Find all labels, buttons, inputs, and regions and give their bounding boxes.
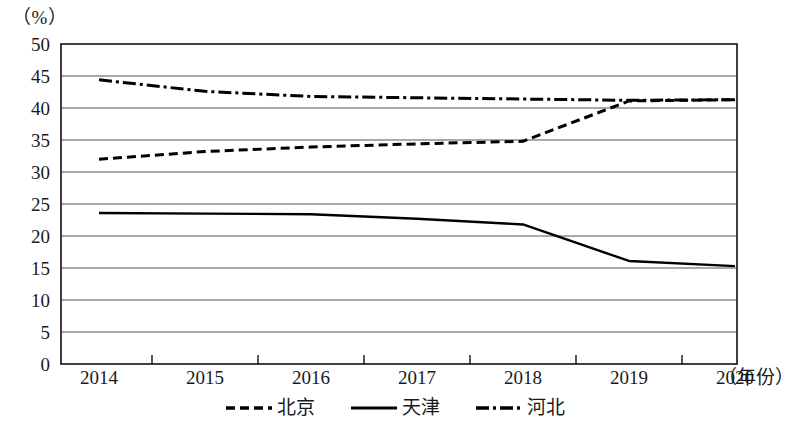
legend-line-sample-icon bbox=[476, 401, 522, 415]
plot-area bbox=[0, 0, 791, 427]
legend-item[interactable]: 河北 bbox=[476, 398, 565, 417]
series-line-北京 bbox=[99, 100, 735, 160]
series-line-河北 bbox=[99, 80, 735, 100]
legend-item[interactable]: 天津 bbox=[351, 398, 440, 417]
legend-label: 河北 bbox=[527, 398, 565, 417]
gridlines bbox=[61, 76, 737, 332]
legend-label: 天津 bbox=[402, 398, 440, 417]
legend-line-sample-icon bbox=[351, 401, 397, 415]
legend-label: 北京 bbox=[277, 398, 315, 417]
chart-legend: 北京天津河北 bbox=[0, 398, 791, 417]
series-line-天津 bbox=[99, 213, 735, 266]
legend-line-sample-icon bbox=[226, 401, 272, 415]
x-axis-ticks bbox=[152, 355, 682, 364]
legend-item[interactable]: 北京 bbox=[226, 398, 315, 417]
line-chart: （%） 05101520253035404550 201420152016201… bbox=[0, 0, 791, 427]
